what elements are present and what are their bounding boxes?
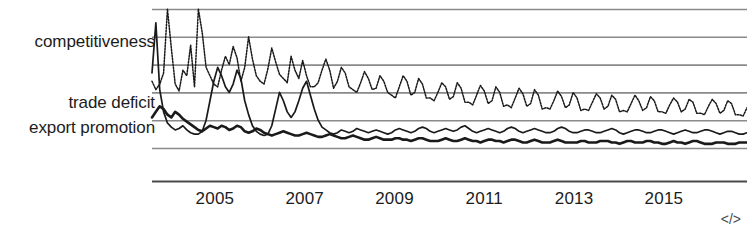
x-tick-2009: 2009 (375, 189, 414, 209)
x-tick-2013: 2013 (555, 189, 594, 209)
x-tick-2007: 2007 (285, 189, 324, 209)
plot-area (0, 0, 747, 227)
x-tick-2011: 2011 (466, 189, 503, 209)
x-tick-2015: 2015 (645, 189, 684, 209)
code-badge[interactable]: </> (721, 212, 741, 226)
series-line-competitiveness (152, 9, 747, 116)
series-line-trade-deficit (152, 23, 747, 136)
series-lines (152, 9, 747, 144)
x-tick-2005: 2005 (196, 189, 235, 209)
trends-chart: competitiveness trade deficit export pro… (0, 0, 747, 227)
